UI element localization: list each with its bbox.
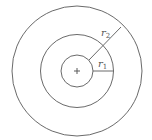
center-mark — [74, 68, 80, 74]
label-r2: r2 — [101, 27, 110, 40]
label-r1: r1 — [98, 58, 107, 71]
concentric-circles-diagram: r1 r2 — [0, 0, 152, 140]
label-r2-subscript: 2 — [106, 32, 110, 40]
label-r1-subscript: 1 — [103, 63, 107, 71]
